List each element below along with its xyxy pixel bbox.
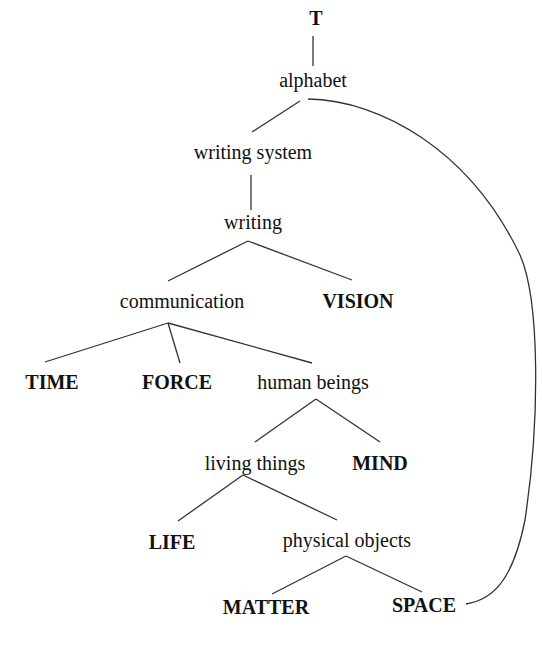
node-alphabet: alphabet bbox=[279, 70, 347, 90]
node-T: T bbox=[309, 8, 322, 28]
node-mind: MIND bbox=[352, 453, 408, 473]
node-space: SPACE bbox=[392, 595, 456, 615]
edge-communication-to-time bbox=[45, 323, 168, 362]
edge-human_beings-to-living_things bbox=[255, 399, 316, 442]
node-writing: writing bbox=[224, 212, 282, 232]
edge-alphabet-to-writing_system bbox=[252, 101, 300, 132]
node-vision: VISION bbox=[322, 291, 393, 311]
node-communication: communication bbox=[120, 291, 244, 311]
edge-writing-to-vision bbox=[248, 241, 352, 280]
tree-edges bbox=[0, 0, 542, 646]
edge-living_things-to-life bbox=[178, 475, 243, 521]
edge-writing-to-communication bbox=[168, 241, 248, 281]
edge-physical_objects-to-matter bbox=[272, 556, 346, 594]
node-force: FORCE bbox=[142, 372, 212, 392]
edge-physical_objects-to-space bbox=[346, 556, 422, 592]
node-living-things: living things bbox=[205, 453, 306, 473]
edge-living_things-to-physical_objects bbox=[243, 475, 337, 520]
edge-communication-to-human_beings bbox=[168, 323, 312, 363]
node-life: LIFE bbox=[149, 532, 196, 552]
node-physical-objects: physical objects bbox=[283, 530, 411, 550]
edge-human_beings-to-mind bbox=[316, 399, 380, 442]
node-human-beings: human beings bbox=[257, 372, 369, 392]
node-writing-system: writing system bbox=[194, 142, 312, 162]
node-time: TIME bbox=[25, 372, 78, 392]
edge-communication-to-force bbox=[168, 323, 180, 363]
node-matter: MATTER bbox=[223, 597, 309, 617]
concept-tree-diagram: Talphabetwriting systemwritingcommunicat… bbox=[0, 0, 542, 646]
